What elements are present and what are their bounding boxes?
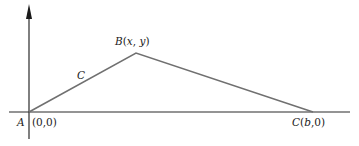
diagram-canvas: B(x, y) C A (0,0) C(b,0) (0, 0, 359, 146)
label-curve-c: C (77, 69, 85, 81)
path-abc (29, 53, 313, 112)
label-origin-a: A (16, 116, 25, 128)
label-end-c: C(b,0) (292, 116, 325, 128)
y-axis-arrow-icon (26, 4, 32, 19)
label-origin-coords: (0,0) (32, 116, 57, 128)
label-peak-b: B(x, y) (114, 35, 149, 47)
